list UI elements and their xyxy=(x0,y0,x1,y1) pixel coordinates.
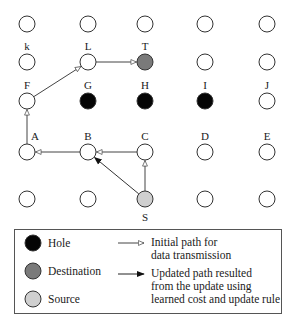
node-label-T: T xyxy=(142,40,149,52)
edge-updated-S-to-B xyxy=(95,157,139,194)
node-label-E: E xyxy=(264,130,271,142)
routing-diagram: kLTFGHIJABCDES Hole Destination Source I… xyxy=(0,0,293,327)
hole-legend-icon xyxy=(25,235,41,251)
node-r2c4-empty-icon xyxy=(197,54,213,70)
node-D-empty-icon xyxy=(197,144,213,160)
node-E-empty-icon xyxy=(259,144,275,160)
node-I-hole-icon xyxy=(197,93,213,109)
legend-updated-path-line3: learned cost and update rule xyxy=(151,293,280,306)
nodes-layer: kLTFGHIJABCDES xyxy=(19,16,275,223)
node-A-empty-icon xyxy=(19,144,35,160)
node-label-F: F xyxy=(24,79,30,91)
node-label-B: B xyxy=(84,130,91,142)
node-r1c5-empty-icon xyxy=(259,16,275,32)
node-C-empty-icon xyxy=(137,144,153,160)
node-label-k: k xyxy=(24,40,30,52)
node-label-S: S xyxy=(142,211,148,223)
node-label-J: J xyxy=(265,79,270,91)
legend-updated-path-line1: Updated path resulted xyxy=(151,267,252,280)
node-label-A: A xyxy=(31,130,39,142)
node-H-hole-icon xyxy=(137,93,153,109)
destination-legend-icon xyxy=(25,263,41,279)
node-label-D: D xyxy=(201,130,209,142)
node-label-I: I xyxy=(203,79,207,91)
node-r2c5-empty-icon xyxy=(259,54,275,70)
legend-updated-path-line2: from the update using xyxy=(151,280,252,293)
legend-initial-path-line1: Initial path for xyxy=(151,236,218,249)
node-T-destination-icon xyxy=(137,54,153,70)
node-B-empty-icon xyxy=(80,144,96,160)
node-r5c4-empty-icon xyxy=(197,191,213,207)
node-label-L: L xyxy=(85,40,92,52)
legend-initial-path-line2: data transmission xyxy=(151,249,231,261)
node-L-empty-icon xyxy=(80,54,96,70)
node-r1c4-empty-icon xyxy=(197,16,213,32)
legend-source-label: Source xyxy=(48,293,80,305)
node-r5c1-empty-icon xyxy=(19,191,35,207)
legend-destination-label: Destination xyxy=(48,265,101,277)
node-F-empty-icon xyxy=(19,93,35,109)
legend: Hole Destination Source Initial path for… xyxy=(15,230,282,314)
node-k-empty-icon xyxy=(19,54,35,70)
edge-initial-F-to-L xyxy=(34,67,81,97)
node-label-G: G xyxy=(84,79,92,91)
node-label-C: C xyxy=(141,130,148,142)
legend-hole-label: Hole xyxy=(48,237,70,249)
node-G-hole-icon xyxy=(80,93,96,109)
node-J-empty-icon xyxy=(259,93,275,109)
node-S-source-icon xyxy=(137,191,153,207)
node-r1c3-empty-icon xyxy=(137,16,153,32)
node-label-H: H xyxy=(141,79,149,91)
node-r1c1-empty-icon xyxy=(19,16,35,32)
node-r5c5-empty-icon xyxy=(259,191,275,207)
source-legend-icon xyxy=(25,291,41,307)
node-r5c2-empty-icon xyxy=(80,191,96,207)
node-r1c2-empty-icon xyxy=(80,16,96,32)
